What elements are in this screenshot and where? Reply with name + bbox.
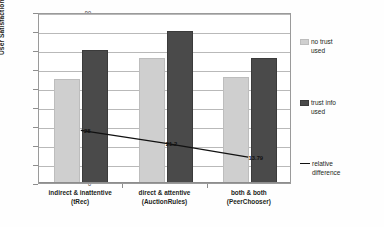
x-label-line: both & both [207,189,291,198]
legend-label-line: used [311,47,333,56]
legend-label: no trustused [311,38,333,55]
legend-label-line: difference [312,169,340,178]
legend-label-line: no trust [311,38,333,47]
x-label-line: indirect & inattentive [38,189,122,198]
y-tick-mark [33,184,38,185]
x-label-line: (PeerChooser) [207,198,291,207]
dark-swatch-icon [300,100,309,106]
chart-screenshot: User Satisfaction (%) 010203040506070809… [0,0,384,227]
x-axis-baseline [39,182,290,183]
legend-item[interactable]: no trustused [300,38,380,55]
line-point-label: 21.2 [166,141,177,147]
legend-label-line: relative [312,160,340,169]
x-axis-label: indirect & inattentive(tRec) [38,189,122,206]
y-axis-title: User Satisfaction (%) [0,41,5,55]
legend-label: relativedifference [312,160,340,177]
light-swatch-icon [300,39,309,45]
legend-item[interactable]: trust infoused [300,99,380,116]
legend-label-line: trust info [311,99,336,108]
legend-label-line: used [311,108,336,117]
legend-label: trust infoused [311,99,336,116]
x-label-line: (tRec) [38,198,122,207]
x-axis-label: both & both(PeerChooser) [207,189,291,206]
x-axis-label: direct & attentive(AuctionRules) [122,189,206,206]
plot-area: 2821.213.79 [38,13,291,184]
x-label-line: direct & attentive [122,189,206,198]
chart-legend: no trustusedtrust infousedrelativediffer… [300,38,380,178]
line-point-label: 28 [84,128,90,134]
line-point-label: 13.79 [249,155,264,161]
x-tick-mark [207,184,208,188]
legend-item[interactable]: relativedifference [300,160,380,177]
x-tick-mark [122,184,123,188]
line-marker-icon [300,163,310,164]
x-label-line: (AuctionRules) [122,198,206,207]
